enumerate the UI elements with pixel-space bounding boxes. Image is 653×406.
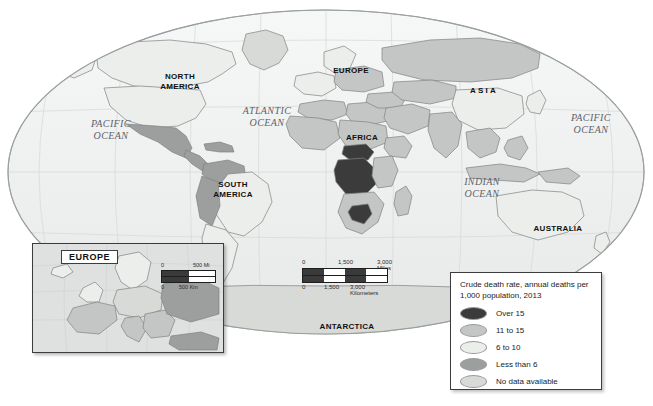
legend-item-11-to-15[interactable]: 11 to 15 xyxy=(460,322,601,339)
legend-swatch-11-to-15 xyxy=(460,324,487,337)
scale-miles-mid: 1,500 xyxy=(338,259,353,265)
legend-swatch-6-to-10 xyxy=(460,341,487,354)
legend-label-less-than-6: Less than 6 xyxy=(496,360,537,369)
legend-label-6-to-10: 6 to 10 xyxy=(496,343,520,352)
legend-title: Crude death rate, annual deaths per 1,00… xyxy=(451,273,601,304)
scale-bar-miles-labels: 0 1,500 3,000 Miles xyxy=(302,259,388,268)
legend[interactable]: Crude death rate, annual deaths per 1,00… xyxy=(450,272,602,390)
legend-swatch-less-than-6 xyxy=(460,358,487,371)
scale-bar-main: 0 1,500 3,000 Miles 0 1,500 3,000 Kilome… xyxy=(302,259,388,293)
legend-swatch-no-data xyxy=(460,375,487,388)
europe-inset-title: EUROPE xyxy=(61,250,118,264)
inset-miles-end: 500 Mi xyxy=(193,262,210,268)
legend-item-no-data[interactable]: No data available xyxy=(460,373,601,390)
inset-km-labels: 0 500 Km xyxy=(161,284,216,292)
inset-miles-labels: 0 500 Mi xyxy=(161,262,216,270)
legend-item-over-15[interactable]: Over 15 xyxy=(460,305,601,322)
legend-swatch-over-15 xyxy=(460,307,487,320)
inset-miles-start: 0 xyxy=(161,262,164,268)
inset-scale-graphic xyxy=(161,270,216,277)
scale-bar-km-labels: 0 1,500 3,000 Kilometers xyxy=(302,284,388,293)
inset-scale-graphic-km xyxy=(161,277,216,283)
scale-bar-graphic xyxy=(302,268,388,276)
scale-km-end: 3,000 Kilometers xyxy=(350,284,388,296)
legend-item-6-to-10[interactable]: 6 to 10 xyxy=(460,339,601,356)
legend-label-no-data: No data available xyxy=(496,377,558,386)
inset-km-end: 500 Km xyxy=(179,284,198,290)
scale-bar-inset: 0 500 Mi 0 500 Km xyxy=(161,262,216,292)
scale-km-start: 0 xyxy=(302,284,305,290)
legend-label-11-to-15: 11 to 15 xyxy=(496,326,524,335)
inset-km-start: 0 xyxy=(161,284,164,290)
legend-label-over-15: Over 15 xyxy=(496,309,524,318)
scale-miles-start: 0 xyxy=(302,259,305,265)
scale-km-mid: 1,500 xyxy=(324,284,339,290)
legend-items: Over 15 11 to 15 6 to 10 Less than 6 No … xyxy=(451,304,601,390)
region-eastern-europe[interactable] xyxy=(334,66,384,92)
legend-item-less-than-6[interactable]: Less than 6 xyxy=(460,356,601,373)
country-russia[interactable] xyxy=(382,38,540,82)
map-figure: NORTH AMERICA SOUTH AMERICA EUROPE AFRIC… xyxy=(0,0,653,406)
europe-inset-map[interactable]: EUROPE 0 500 Mi 0 500 Km xyxy=(32,243,224,353)
scale-bar-graphic-km xyxy=(302,276,388,283)
